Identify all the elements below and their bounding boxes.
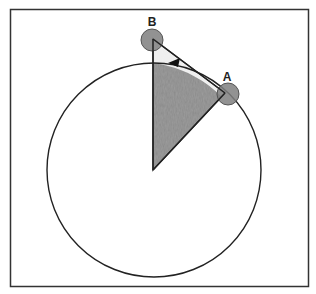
point-b-label: B — [148, 15, 157, 29]
diagram-svg: B A — [0, 0, 316, 294]
point-a-marker — [217, 83, 239, 105]
point-b-marker — [141, 29, 163, 51]
point-a-label: A — [223, 70, 232, 84]
diagram-canvas: B A — [0, 0, 316, 294]
